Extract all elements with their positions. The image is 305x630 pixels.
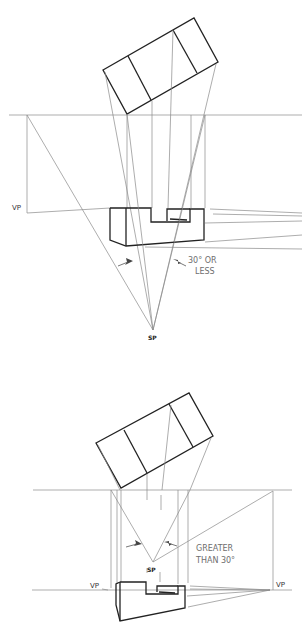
- object-notch-edge: [157, 586, 178, 592]
- vanishing-line: [188, 590, 270, 607]
- plan-view-object: [96, 393, 213, 488]
- plan-view-edge: [124, 430, 147, 473]
- angle-arrow-right: [164, 541, 172, 546]
- cone-line-left: [127, 114, 153, 330]
- perspective-diagram: VP 30° OR LESS SP: [0, 0, 305, 630]
- projector-line: [105, 72, 153, 330]
- sp-label: SP: [147, 566, 156, 573]
- vanishing-line: [213, 214, 302, 216]
- vanishing-line: [210, 209, 302, 213]
- vp-right-label: VP: [276, 581, 285, 589]
- angle-note-line2: THAN 30°: [195, 556, 235, 565]
- perspective-object: [116, 582, 185, 621]
- vanishing-line: [187, 590, 270, 596]
- vanishing-line: [205, 221, 302, 223]
- vanishing-line: [145, 247, 302, 249]
- plan-view-edge: [173, 30, 197, 73]
- sp-label: SP: [148, 334, 157, 341]
- angle-note-line1: GREATER: [196, 544, 234, 553]
- vp-left-label: VP: [90, 582, 99, 590]
- projector-line: [162, 405, 171, 490]
- sight-line-left: [27, 115, 153, 330]
- plan-view-object: [103, 18, 218, 114]
- horizon-line: [27, 208, 110, 213]
- plan-view-edge: [169, 404, 193, 447]
- perspective-object: [110, 208, 204, 246]
- angle-arrow-left: [125, 258, 133, 265]
- projector-line: [190, 438, 211, 490]
- top-diagram: VP 30° OR LESS SP: [9, 18, 302, 341]
- plan-view-edge: [128, 56, 151, 100]
- projector-line: [98, 445, 120, 490]
- projector-line: [168, 30, 173, 208]
- vp-label: VP: [12, 204, 21, 212]
- vanishing-line: [205, 235, 302, 242]
- bottom-diagram: GREATER THAN 30° SP VP VP: [32, 393, 292, 621]
- object-notch-edge: [159, 592, 175, 593]
- object-notch-edge: [170, 219, 187, 220]
- angle-arrow-right-shaft: [178, 262, 186, 266]
- angle-note-line2: LESS: [195, 267, 215, 276]
- angle-note-line1: 30° OR: [188, 256, 217, 265]
